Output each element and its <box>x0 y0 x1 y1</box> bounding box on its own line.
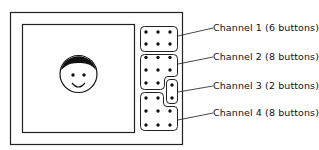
smiley-face-icon <box>60 56 97 93</box>
channel-1-button-group <box>141 27 178 52</box>
display-screen <box>23 25 135 133</box>
channel-3-button-group <box>167 80 178 104</box>
channel-1-label: Channel 1 (6 buttons) <box>213 22 319 33</box>
channel-2-label: Channel 2 (8 buttons) <box>213 51 319 62</box>
leader-lines <box>178 28 213 120</box>
channel-4-label: Channel 4 (8 buttons) <box>213 107 319 118</box>
channel-3-label: Channel 3 (2 buttons) <box>213 80 319 91</box>
